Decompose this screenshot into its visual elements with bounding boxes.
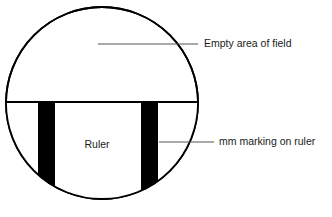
microscope-field-diagram: Ruler Empty area of field mm marking on … bbox=[0, 0, 332, 217]
annotation-label-empty-area: Empty area of field bbox=[204, 37, 292, 49]
ruler-label: Ruler bbox=[84, 138, 110, 150]
annotation-label-mm-marking: mm marking on ruler bbox=[219, 135, 316, 147]
figure-canvas: Ruler Empty area of field mm marking on … bbox=[0, 0, 332, 217]
